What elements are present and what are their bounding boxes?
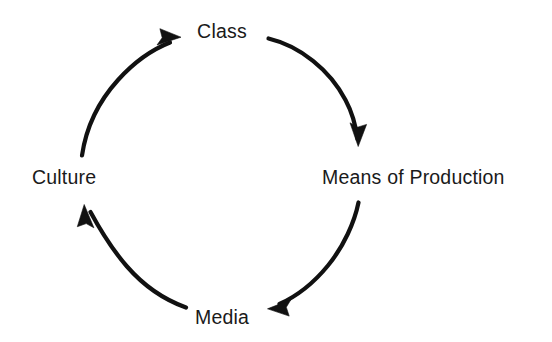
arrow-media-to-culture	[77, 205, 186, 308]
arrow-means-to-media-curve	[280, 203, 359, 305]
arrow-class-to-means-curve	[269, 39, 358, 140]
node-label-class: Class	[0, 22, 444, 42]
arrow-culture-to-class	[82, 29, 181, 156]
arrow-class-to-means	[269, 39, 367, 147]
node-label-means-of-production: Means of Production	[322, 168, 505, 188]
arrow-class-to-means-head	[350, 123, 367, 147]
node-label-media: Media	[0, 308, 444, 328]
arrow-media-to-culture-curve	[91, 212, 187, 308]
node-label-culture: Culture	[32, 168, 96, 188]
arrow-means-to-media	[268, 203, 359, 317]
cycle-diagram: Class Means of Production Media Culture	[0, 0, 552, 342]
arrow-culture-to-class-curve	[82, 43, 170, 156]
